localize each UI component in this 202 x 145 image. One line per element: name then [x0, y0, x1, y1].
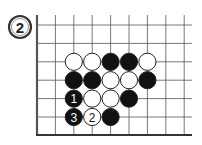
stone-disc [65, 53, 82, 70]
stone-disc [120, 72, 137, 89]
black-stone [102, 108, 119, 125]
stone-disc [120, 53, 137, 70]
stone-disc [102, 90, 119, 107]
move-number: 1 [70, 92, 77, 106]
stone-disc [65, 72, 82, 89]
move-number: 3 [70, 111, 77, 125]
white-stone [139, 53, 156, 70]
black-stone [102, 53, 119, 70]
black-stone [120, 90, 137, 107]
stone-disc [139, 72, 156, 89]
go-diagram: 2 132 [0, 0, 202, 145]
stone-disc [120, 90, 137, 107]
black-stone [120, 53, 137, 70]
black-stone [139, 72, 156, 89]
stone-disc [102, 72, 119, 89]
stone-disc [84, 53, 101, 70]
black-stone: 1 [65, 90, 82, 107]
stone-disc [102, 53, 119, 70]
white-stone [84, 90, 101, 107]
black-stone: 3 [65, 108, 82, 125]
stone-disc [102, 108, 119, 125]
label-number: 2 [16, 19, 24, 36]
black-stone [84, 72, 101, 89]
stone-disc [84, 72, 101, 89]
stone-disc [139, 53, 156, 70]
white-stone [120, 72, 137, 89]
white-stone: 2 [84, 108, 101, 125]
white-stone [102, 90, 119, 107]
white-stone [102, 72, 119, 89]
white-stone [65, 53, 82, 70]
stone-disc [84, 90, 101, 107]
diagram-label: 2 [9, 16, 31, 38]
move-number: 2 [89, 111, 96, 125]
black-stone [65, 72, 82, 89]
white-stone [84, 53, 101, 70]
